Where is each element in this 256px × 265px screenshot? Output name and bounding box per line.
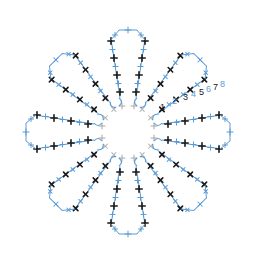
petal — [130, 134, 217, 221]
row-number-4: 4 — [191, 89, 196, 99]
row-number-1: 1 — [160, 102, 165, 112]
row-numbers: 12345678 — [160, 79, 225, 112]
row-number-3: 3 — [183, 92, 188, 102]
petal — [108, 27, 148, 109]
petal — [39, 134, 126, 221]
row-number-8: 8 — [220, 79, 225, 89]
row-number-7: 7 — [213, 82, 218, 92]
row-number-5: 5 — [199, 87, 204, 97]
petal — [108, 155, 148, 237]
crochet-chart: 12345678 — [0, 0, 256, 265]
petal — [151, 112, 233, 152]
petals-group — [23, 27, 233, 237]
row-number-6: 6 — [206, 84, 211, 94]
row-number-2: 2 — [172, 96, 177, 106]
petal — [23, 112, 105, 152]
petal — [39, 43, 126, 130]
